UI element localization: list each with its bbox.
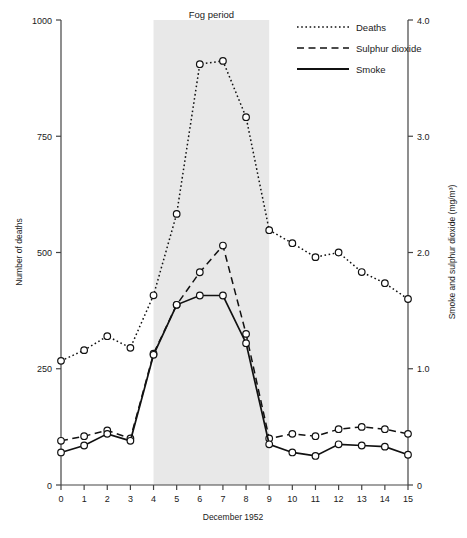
- data-point-marker: [312, 433, 319, 440]
- y-tick-label-right: 4.0: [417, 16, 430, 26]
- data-point-marker: [266, 441, 273, 448]
- x-tick-label: 11: [311, 494, 320, 504]
- x-tick-label: 0: [58, 494, 63, 504]
- data-point-marker: [289, 449, 296, 456]
- y-tick-label-left: 1000: [32, 16, 52, 26]
- x-tick-label: 6: [197, 494, 202, 504]
- data-point-marker: [312, 453, 319, 460]
- legend-label: Sulphur dioxide: [356, 43, 422, 54]
- data-point-marker: [127, 345, 134, 352]
- legend-label: Smoke: [356, 64, 386, 75]
- legend-label: Deaths: [356, 22, 386, 33]
- x-tick-label: 4: [151, 494, 156, 504]
- chart-figure: Fog period0250500750100001.02.03.04.0012…: [0, 0, 467, 538]
- data-point-marker: [220, 242, 227, 249]
- data-point-marker: [81, 433, 88, 440]
- data-point-marker: [266, 227, 273, 234]
- chart-svg: Fog period0250500750100001.02.03.04.0012…: [0, 0, 467, 538]
- data-point-marker: [335, 426, 342, 433]
- x-tick-label: 14: [380, 494, 390, 504]
- y-axis-title-right: Smoke and sulphur dioxide (mg/m³): [447, 185, 457, 320]
- y-tick-label-left: 250: [37, 364, 52, 374]
- data-point-marker: [358, 442, 365, 449]
- legend-item-deaths[interactable]: Deaths: [297, 22, 386, 33]
- data-point-marker: [243, 331, 250, 338]
- x-tick-label: 3: [128, 494, 133, 504]
- data-point-marker: [289, 240, 296, 247]
- data-point-marker: [358, 269, 365, 276]
- data-point-marker: [150, 292, 157, 299]
- x-axis-title: December 1952: [203, 512, 264, 522]
- y-tick-label-right: 0: [417, 481, 422, 491]
- data-point-marker: [81, 442, 88, 449]
- x-tick-label: 13: [357, 494, 367, 504]
- data-point-marker: [197, 292, 204, 299]
- data-point-marker: [197, 269, 204, 276]
- data-point-marker: [382, 443, 389, 450]
- data-point-marker: [358, 424, 365, 431]
- data-point-marker: [382, 426, 389, 433]
- y-tick-label-right: 2.0: [417, 248, 430, 258]
- y-tick-label-right: 3.0: [417, 132, 430, 142]
- y-axis-title-left: Number of deaths: [14, 218, 24, 286]
- data-point-marker: [335, 249, 342, 256]
- data-point-marker: [405, 431, 412, 438]
- data-point-marker: [220, 292, 227, 299]
- data-point-marker: [81, 347, 88, 354]
- data-point-marker: [243, 340, 250, 347]
- data-point-marker: [289, 431, 296, 438]
- y-tick-label-left: 500: [37, 248, 52, 258]
- data-point-marker: [243, 114, 250, 121]
- data-point-marker: [58, 358, 65, 365]
- x-tick-label: 10: [287, 494, 297, 504]
- fog-period-label: Fog period: [189, 9, 234, 20]
- data-point-marker: [150, 352, 157, 359]
- y-tick-label-right: 1.0: [417, 364, 430, 374]
- data-point-marker: [104, 333, 111, 340]
- data-point-marker: [127, 438, 134, 445]
- data-point-marker: [405, 451, 412, 458]
- x-tick-label: 5: [174, 494, 179, 504]
- x-tick-label: 8: [244, 494, 249, 504]
- data-point-marker: [335, 441, 342, 448]
- data-point-marker: [220, 58, 227, 65]
- data-point-marker: [312, 254, 319, 261]
- x-tick-label: 7: [220, 494, 225, 504]
- legend-item-smoke[interactable]: Smoke: [297, 64, 386, 75]
- data-point-marker: [173, 211, 180, 218]
- data-point-marker: [58, 449, 65, 456]
- legend-item-sulphur-dioxide[interactable]: Sulphur dioxide: [297, 43, 422, 54]
- data-point-marker: [197, 61, 204, 68]
- x-tick-label: 12: [334, 494, 344, 504]
- x-tick-label: 9: [267, 494, 272, 504]
- fog-period-band: [154, 20, 270, 485]
- x-tick-label: 15: [403, 494, 413, 504]
- data-point-marker: [405, 296, 412, 303]
- y-tick-label-left: 0: [47, 481, 52, 491]
- data-point-marker: [173, 302, 180, 309]
- x-tick-label: 2: [105, 494, 110, 504]
- data-point-marker: [104, 431, 111, 438]
- data-point-marker: [382, 280, 389, 287]
- y-tick-label-left: 750: [37, 132, 52, 142]
- data-point-marker: [58, 438, 65, 445]
- x-tick-label: 1: [82, 494, 87, 504]
